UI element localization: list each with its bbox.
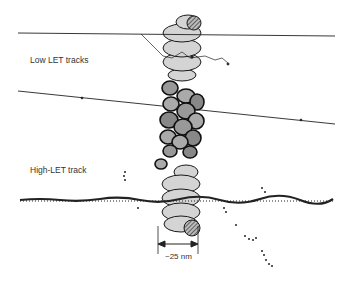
high-let-label: High-LET track <box>30 165 87 175</box>
low-let-label: Low LET tracks <box>30 55 88 65</box>
scale-label: ~25 nm <box>165 252 192 261</box>
chromatin-radiation-track-diagram <box>0 0 347 282</box>
upper-solenoid-chromatin <box>163 15 201 81</box>
condensed-nucleosome-cluster <box>155 81 204 169</box>
